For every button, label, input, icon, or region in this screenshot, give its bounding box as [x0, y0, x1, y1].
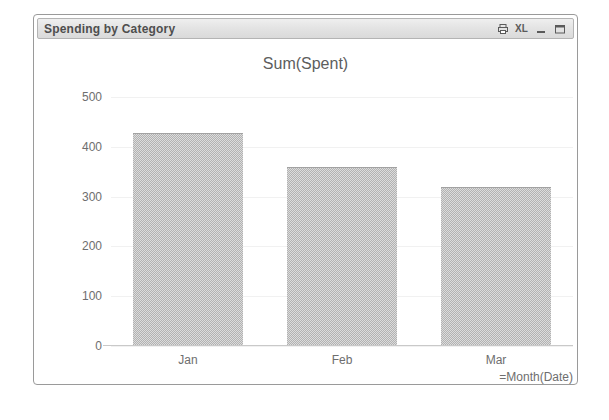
x-axis-title: =Month(Date) [499, 370, 573, 384]
gridline [111, 97, 573, 98]
x-axis-tick-label: Mar [486, 353, 507, 367]
maximize-icon[interactable] [553, 22, 566, 35]
chart-body: Sum(Spent) 5004003002001000 JanFebMar =M… [37, 41, 574, 381]
chart-title: Sum(Spent) [37, 55, 574, 73]
page-title: Spending by Category [38, 22, 175, 36]
x-axis-tick-label: Jan [178, 353, 197, 367]
excel-export-label: XL [515, 24, 528, 34]
y-axis-tick-label: 400 [82, 140, 102, 154]
y-axis-tick-label: 500 [82, 90, 102, 104]
x-axis-tick-label: Feb [332, 353, 353, 367]
bar[interactable] [133, 133, 244, 346]
gridline [111, 346, 573, 347]
excel-export-icon[interactable]: XL [515, 22, 528, 35]
minimize-icon[interactable] [534, 22, 547, 35]
plot-area[interactable]: 5004003002001000 JanFebMar =Month(Date) [111, 97, 573, 346]
print-icon[interactable] [496, 22, 509, 35]
y-axis-tick-label: 200 [82, 239, 102, 253]
x-axis-line [103, 345, 573, 346]
y-axis-tick-label: 0 [95, 339, 102, 353]
window-title-bar[interactable]: Spending by Category XL [37, 18, 574, 39]
bar[interactable] [441, 187, 552, 346]
chart-window: Spending by Category XL [33, 14, 578, 385]
y-axis-tick-label: 100 [82, 289, 102, 303]
window-controls: XL [496, 22, 573, 35]
bar[interactable] [287, 167, 398, 346]
y-axis-tick-label: 300 [82, 190, 102, 204]
